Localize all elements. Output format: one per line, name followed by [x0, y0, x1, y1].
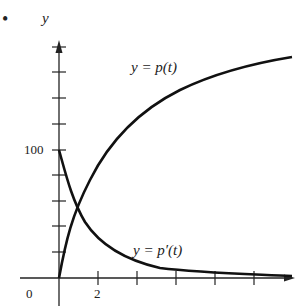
- chart-canvas: [0, 0, 295, 308]
- x-tick-label-2: 2: [94, 286, 101, 302]
- y-axis-label: y: [42, 10, 49, 27]
- y-tick-label-100: 100: [24, 142, 44, 158]
- curve-p-prime-label: y = p′(t): [133, 242, 182, 259]
- curve-p-label: y = p(t): [131, 59, 177, 76]
- origin-label: 0: [26, 286, 33, 302]
- item-marker: •: [2, 9, 8, 30]
